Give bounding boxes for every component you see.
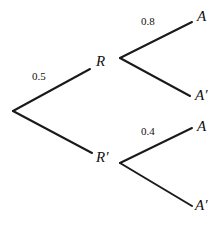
node-label-R-prime: R′ [96, 150, 108, 165]
probability-tree-diagram: R R′ A A′ A A′ 0.5 0.8 0.4 [0, 0, 220, 225]
edge-R-to-A [120, 22, 192, 58]
edge-label-prob-root-to-R: 0.5 [32, 71, 46, 82]
edge-root-to-R [13, 69, 90, 111]
edge-root-to-Rprime [13, 111, 92, 153]
edge-label-prob-R-to-A: 0.8 [141, 16, 155, 27]
edge-R-to-Aprime [120, 58, 190, 96]
node-label-A-top: A [197, 9, 206, 24]
edge-Rprime-to-A [120, 128, 192, 163]
edge-Rprime-to-Aprime [120, 163, 192, 206]
node-label-A-prime-bottom: A′ [195, 198, 207, 213]
node-label-R: R [96, 54, 105, 69]
edge-label-prob-Rprime-to-A: 0.4 [141, 126, 155, 137]
node-label-A-bottom: A [197, 119, 206, 134]
node-label-A-prime-top: A′ [195, 88, 207, 103]
tree-edges-canvas [0, 0, 220, 225]
